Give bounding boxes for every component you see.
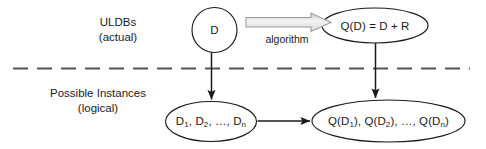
band-label-logical: Possible Instances (logical)	[23, 86, 173, 116]
qd-ellipse-label: Q(D) = D + R	[315, 19, 435, 34]
band-label-actual: ULDBs (actual)	[58, 15, 178, 45]
band-label-actual-line1: ULDBs	[58, 15, 178, 30]
query-instances-label-text: Q(D1), Q(D2), …, Q(Dn)	[328, 115, 449, 127]
band-label-logical-line1: Possible Instances	[23, 86, 173, 101]
instances-ellipse-label: D1, D2, …, Dn	[151, 114, 271, 130]
algorithm-arrow-label: algorithm	[243, 32, 331, 47]
query-instances-ellipse-label: Q(D1), Q(D2), …, Q(Dn)	[308, 114, 469, 130]
band-label-actual-line2: (actual)	[58, 30, 178, 45]
d-circle-label: D	[184, 23, 245, 38]
instances-label-text: D1, D2, …, Dn	[176, 115, 246, 127]
uldb-possible-instances-diagram: ULDBs (actual) Possible Instances (logic…	[0, 0, 486, 149]
